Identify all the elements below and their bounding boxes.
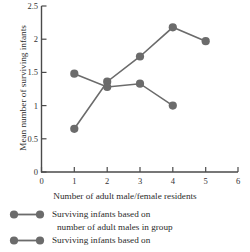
x-tick-label-0: 0 bbox=[32, 177, 52, 186]
legend-entry-males-continued: number of adult males in group bbox=[0, 221, 250, 234]
legend-entry-males: Surviving infants based on bbox=[0, 208, 250, 221]
y-axis-title: Mean number of surviving infants bbox=[18, 3, 28, 173]
chart-figure: 0 0.5 1 1.5 2 2.5 0 1 2 3 4 5 6 Number o… bbox=[0, 0, 250, 252]
x-tick-label-5: 5 bbox=[196, 177, 216, 186]
chart-legend: Surviving infants based on number of adu… bbox=[0, 208, 250, 247]
x-tick-label-6: 6 bbox=[228, 177, 248, 186]
x-axis-title: Number of adult male/female residents bbox=[0, 191, 250, 201]
x-axis-ticks bbox=[42, 167, 239, 172]
legend-label-males-line1: Surviving infants based on bbox=[52, 208, 150, 221]
series-females-markers bbox=[70, 70, 177, 110]
y-axis-ticks bbox=[42, 6, 47, 172]
series-males-line bbox=[74, 27, 205, 129]
x-tick-label-1: 1 bbox=[64, 177, 84, 186]
x-tick-label-2: 2 bbox=[97, 177, 117, 186]
legend-label-males-line2: number of adult males in group bbox=[57, 221, 173, 234]
legend-label-females-line1: Surviving infants based on bbox=[52, 234, 150, 247]
x-tick-label-4: 4 bbox=[163, 177, 183, 186]
legend-marker-males-icon bbox=[9, 208, 45, 221]
legend-marker-females-icon bbox=[9, 234, 45, 247]
x-tick-label-3: 3 bbox=[130, 177, 150, 186]
series-females-line bbox=[74, 74, 173, 106]
series-males-markers bbox=[70, 23, 210, 133]
legend-entry-females: Surviving infants based on bbox=[0, 234, 250, 247]
